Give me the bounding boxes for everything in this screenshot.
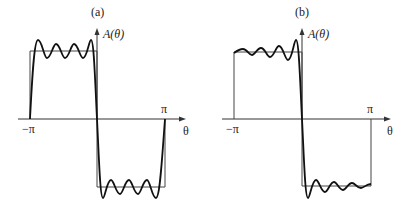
panel-b-label: (b) [295, 5, 309, 19]
tick-pi: π [161, 102, 167, 116]
x-axis-label: θ [183, 124, 189, 138]
x-axis-arrow-icon [384, 117, 391, 122]
panel-a: (a) A(θ) θ −π π [18, 5, 189, 198]
y-axis-label: A(θ) [102, 27, 124, 41]
tick-neg-pi: −π [22, 122, 35, 136]
x-axis-arrow-icon [179, 117, 186, 122]
tick-pi: π [367, 102, 373, 116]
tick-neg-pi: −π [226, 122, 239, 136]
panel-b: (b) A(θ) θ −π π [222, 5, 393, 198]
figure: (a) A(θ) θ −π π (b) A(θ) θ −π π [0, 0, 411, 212]
panel-a-label: (a) [91, 5, 104, 19]
y-axis-arrow-icon [300, 28, 305, 35]
y-axis-arrow-icon [95, 28, 100, 35]
y-axis-label: A(θ) [307, 27, 329, 41]
x-axis-label: θ [387, 124, 393, 138]
